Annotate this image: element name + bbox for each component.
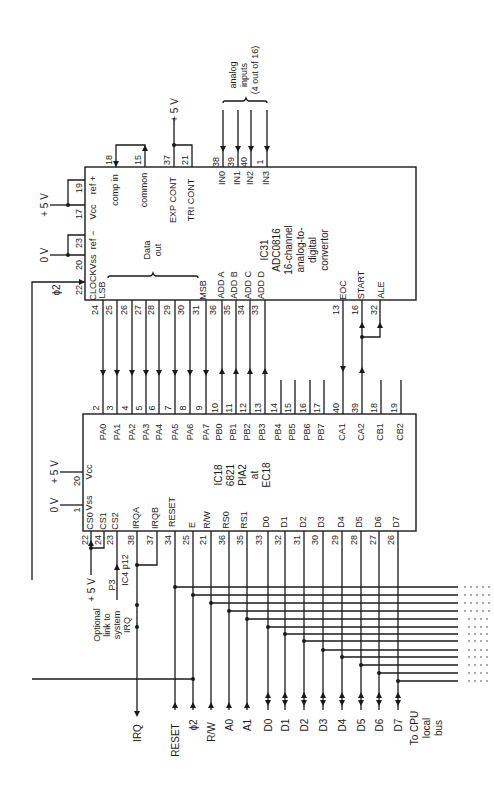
pia-power-pins: 20 Vcc + 5 V 1 Vss 0 V — [49, 460, 94, 513]
svg-text:ref −: ref − — [88, 231, 98, 249]
svg-text:A0: A0 — [224, 718, 235, 731]
svg-text:Vss: Vss — [84, 495, 94, 511]
svg-text:PA7: PA7 — [201, 424, 211, 440]
svg-text:31: 31 — [292, 535, 302, 545]
svg-text:22: 22 — [80, 535, 90, 545]
svg-text:START: START — [356, 270, 366, 299]
svg-text:IRQ: IRQ — [122, 617, 132, 633]
bus-wires — [172, 531, 494, 710]
analog-inputs: 38 39 40 1 IN0 IN1 IN2 IN3 analog inputs… — [211, 46, 271, 185]
svg-text:CS0: CS0 — [85, 512, 95, 530]
svg-text:40: 40 — [331, 403, 341, 413]
svg-text:7: 7 — [163, 405, 173, 410]
svg-text:ADD A: ADD A — [216, 271, 226, 298]
svg-text:36: 36 — [217, 535, 227, 545]
svg-text:bus: bus — [433, 720, 444, 736]
svg-text:CB1: CB1 — [375, 423, 385, 441]
svg-text:PB6: PB6 — [302, 423, 312, 440]
svg-text:PB5: PB5 — [287, 423, 297, 440]
svg-text:D1: D1 — [280, 718, 291, 731]
svg-text:30: 30 — [310, 535, 320, 545]
svg-text:Optional: Optional — [92, 608, 102, 642]
svg-text:17: 17 — [312, 403, 322, 413]
svg-text:21: 21 — [180, 155, 190, 165]
svg-text:EC18: EC18 — [261, 462, 272, 487]
svg-text:D0: D0 — [261, 516, 271, 528]
svg-text:27: 27 — [133, 305, 143, 315]
svg-text:D4: D4 — [337, 718, 348, 731]
svg-text:6: 6 — [147, 405, 157, 410]
svg-text:IC4 p12: IC4 p12 — [120, 554, 130, 586]
svg-text:20: 20 — [72, 476, 82, 486]
svg-text:E: E — [187, 522, 197, 528]
svg-text:17: 17 — [74, 209, 84, 219]
svg-text:PB3: PB3 — [257, 423, 267, 440]
svg-text:3: 3 — [105, 405, 115, 410]
svg-text:PA0: PA0 — [98, 424, 108, 440]
svg-text:Vcc: Vcc — [88, 204, 98, 220]
pia-top-pin-numbers: 2 3 4 5 6 7 8 9 10 11 12 13 14 15 16 17 … — [91, 403, 399, 413]
adc-chip-label: IC31 ADC0816 16-channel analog-to- digit… — [259, 225, 330, 274]
svg-text:1: 1 — [72, 507, 82, 512]
svg-text:18: 18 — [369, 403, 379, 413]
svg-text:12: 12 — [238, 403, 248, 413]
svg-text:D3: D3 — [318, 718, 329, 731]
svg-text:39: 39 — [226, 157, 236, 167]
svg-text:A1: A1 — [242, 718, 253, 731]
svg-text:D2: D2 — [298, 516, 308, 528]
svg-text:32: 32 — [273, 535, 283, 545]
svg-text:IRQB: IRQB — [150, 507, 160, 529]
svg-text:28: 28 — [349, 535, 359, 545]
svg-text:RESET: RESET — [170, 723, 181, 756]
svg-text:IRQ: IRQ — [132, 724, 143, 742]
svg-text:CA2: CA2 — [356, 423, 366, 441]
svg-text:6821: 6821 — [225, 463, 236, 486]
svg-text:36: 36 — [208, 305, 218, 315]
svg-text:35: 35 — [222, 305, 232, 315]
svg-text:38: 38 — [126, 535, 136, 545]
svg-text:Vcc: Vcc — [84, 464, 94, 480]
svg-text:25: 25 — [181, 535, 191, 545]
svg-text:ALE: ALE — [376, 281, 386, 298]
svg-text:ADD D: ADD D — [256, 271, 266, 300]
svg-text:D5: D5 — [356, 718, 367, 731]
svg-text:34: 34 — [236, 305, 246, 315]
pia-top-pin-labels: PA0 PA1 PA2 PA3 PA4 PA5 PA6 PA7 PB0 PB1 … — [98, 423, 405, 441]
svg-text:EXP CONT: EXP CONT — [168, 177, 178, 223]
svg-text:link to: link to — [102, 613, 112, 637]
svg-text:Vss: Vss — [88, 254, 98, 270]
svg-text:+ 5 V: + 5 V — [49, 460, 60, 484]
svg-text:40: 40 — [239, 157, 249, 167]
svg-text:13: 13 — [253, 403, 263, 413]
svg-text:ADC0816: ADC0816 — [271, 228, 282, 272]
adc-power-pins: 19 17 + 5 V 23 20 0 V 22 ϕ2 — [32, 180, 85, 580]
svg-text:32: 32 — [369, 305, 379, 315]
svg-text:IC18: IC18 — [213, 464, 224, 486]
svg-text:PA3: PA3 — [141, 424, 151, 440]
svg-text:26: 26 — [386, 535, 396, 545]
svg-text:RS1: RS1 — [239, 511, 249, 529]
svg-text:31: 31 — [191, 305, 201, 315]
svg-text:RESET: RESET — [167, 496, 177, 527]
svg-text:30: 30 — [176, 305, 186, 315]
chip-select-wiring: + 5 V P3 IC4 p12 Optional link to system… — [32, 531, 195, 717]
svg-text:24: 24 — [93, 535, 103, 545]
pia-bottom-pin-labels: CS0 CS1 CS2 IRQA IRQB RESET E R/W RS0 RS… — [85, 496, 401, 529]
svg-text:13: 13 — [331, 305, 341, 315]
svg-text:comp in: comp in — [110, 174, 120, 206]
svg-text:+ 5 V: + 5 V — [39, 193, 50, 217]
svg-text:+ 5 V: + 5 V — [169, 98, 180, 122]
svg-text:D6: D6 — [373, 516, 383, 528]
svg-text:5: 5 — [134, 405, 144, 410]
svg-text:PA6: PA6 — [185, 424, 195, 440]
svg-text:(4 out of 16): (4 out of 16) — [250, 46, 260, 95]
svg-text:25: 25 — [104, 305, 114, 315]
svg-text:4: 4 — [120, 405, 130, 410]
svg-text:20: 20 — [74, 260, 84, 270]
svg-text:TRI CONT: TRI CONT — [186, 178, 196, 221]
svg-text:P3: P3 — [107, 579, 117, 590]
pia-bottom-pin-numbers: 22 24 23 38 37 34 25 21 36 35 33 32 31 3… — [80, 535, 396, 545]
svg-text:LSB: LSB — [97, 281, 107, 298]
svg-text:IN0: IN0 — [217, 171, 227, 185]
svg-text:IRQA: IRQA — [131, 507, 141, 529]
